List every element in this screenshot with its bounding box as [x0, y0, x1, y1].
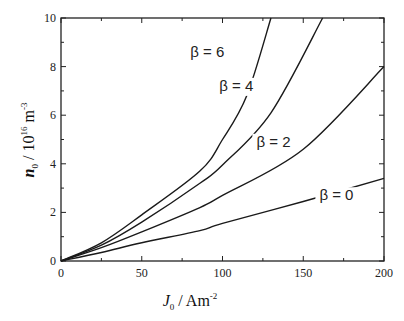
line-chart: 0501001502000246810 β = 0β = 2β = 4β = 6…	[0, 0, 404, 321]
y-axis-title: n0 / 1016 m-3	[19, 102, 40, 177]
curve-labels: β = 0β = 2β = 4β = 6	[186, 43, 361, 205]
x-axis-title: J0 / Am-2	[163, 291, 218, 312]
x-tick-label: 50	[136, 266, 148, 280]
y-tick-label: 6	[50, 108, 56, 122]
x-tick-label: 0	[58, 266, 64, 280]
curve-label: β = 0	[319, 186, 353, 203]
x-tick-label: 100	[214, 266, 232, 280]
y-tick-label: 8	[50, 60, 56, 74]
curve-label: β = 2	[256, 133, 290, 150]
curve-label: β = 6	[190, 43, 224, 60]
curve-β6	[61, 18, 271, 261]
y-tick-label: 2	[50, 205, 56, 219]
y-tick-label: 10	[44, 11, 56, 25]
x-tick-label: 150	[294, 266, 312, 280]
x-tick-label: 200	[375, 266, 393, 280]
y-tick-label: 4	[50, 157, 56, 171]
curve-label: β = 4	[219, 77, 253, 94]
y-tick-label: 0	[50, 254, 56, 268]
